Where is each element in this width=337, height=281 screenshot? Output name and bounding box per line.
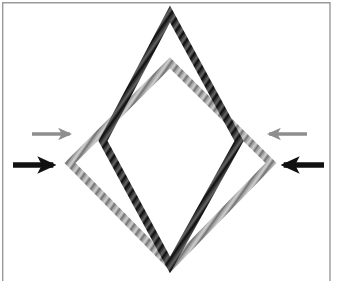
panel-border — [3, 3, 330, 281]
dark-diamond-shape — [103, 14, 239, 265]
figure-canvas — [0, 0, 337, 281]
gray-diamond-shape — [70, 63, 271, 266]
diamond-deformation-figure — [0, 0, 337, 281]
